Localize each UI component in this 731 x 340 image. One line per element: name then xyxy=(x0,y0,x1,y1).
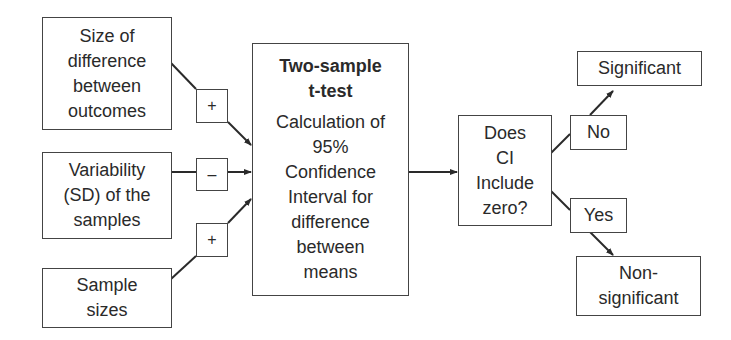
input-variability: Variability (SD) of the samples xyxy=(42,152,172,239)
label-line: difference xyxy=(68,49,147,74)
label-line: Size of xyxy=(79,24,134,49)
label-line: outcomes xyxy=(68,99,146,124)
test-title: t-test xyxy=(309,79,353,104)
branch-no: No xyxy=(570,115,627,150)
label-line: samples xyxy=(73,208,140,233)
label-line: between xyxy=(73,74,141,99)
decision-line: CI xyxy=(496,146,514,171)
two-sample-t-test-box: Two-sample t-test Calculation of 95% Con… xyxy=(252,43,409,296)
test-body-line: between xyxy=(296,235,364,260)
label-line: sizes xyxy=(86,298,127,323)
effect-minus-sign: – xyxy=(196,158,228,191)
label-line: Variability xyxy=(69,158,146,183)
decision-line: Does xyxy=(484,121,526,146)
effect-plus-sign: + xyxy=(196,223,228,257)
outcome-label: significant xyxy=(598,286,678,311)
test-title: Two-sample xyxy=(279,54,382,79)
outcome-significant: Significant xyxy=(577,51,702,86)
input-sample-sizes: Sample sizes xyxy=(42,268,172,328)
test-body-line: means xyxy=(303,260,357,285)
outcome-label: Significant xyxy=(598,56,681,81)
input-size-of-difference: Size of difference between outcomes xyxy=(42,17,172,130)
branch-label: No xyxy=(587,120,610,145)
label-line: (SD) of the xyxy=(63,183,150,208)
effect-plus-sign: + xyxy=(196,89,228,123)
decision-box: Does CI Include zero? xyxy=(458,115,552,226)
test-body-line: difference xyxy=(291,210,370,235)
test-body-line: Interval for xyxy=(288,185,373,210)
test-body-line: Calculation of xyxy=(276,110,385,135)
test-body-line: Confidence xyxy=(285,160,376,185)
branch-label: Yes xyxy=(584,203,613,228)
label-line: Sample xyxy=(76,273,137,298)
outcome-label: Non- xyxy=(619,261,658,286)
branch-yes: Yes xyxy=(570,198,627,233)
decision-line: Include xyxy=(476,171,534,196)
decision-line: zero? xyxy=(482,196,527,221)
test-body-line: 95% xyxy=(312,135,348,160)
outcome-non-significant: Non- significant xyxy=(576,256,701,316)
